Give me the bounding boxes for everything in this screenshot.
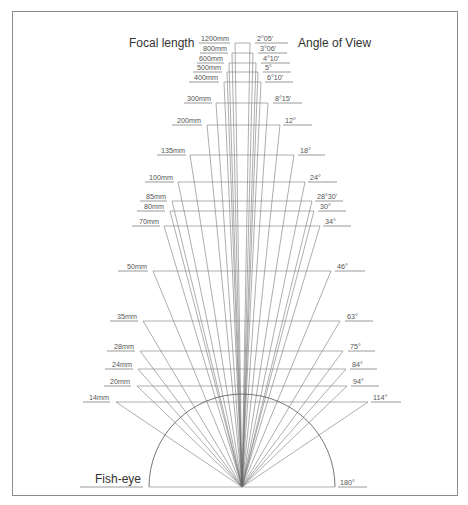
- focal-length-label: 100mm: [149, 173, 173, 182]
- view-angle-rays: [116, 43, 368, 487]
- angle-label: 24°: [310, 173, 321, 182]
- focal-length-label: 135mm: [161, 146, 185, 155]
- ray-left: [235, 43, 242, 487]
- angle-label: 75°: [350, 342, 361, 351]
- angle-label: 28°30': [317, 192, 338, 201]
- ray-right: [242, 226, 320, 487]
- ray-left: [153, 271, 242, 487]
- focal-length-label: 85mm: [146, 192, 166, 201]
- ray-right: [242, 201, 312, 487]
- ray-right: [242, 103, 268, 487]
- focal-length-label: 200mm: [177, 116, 201, 125]
- ray-left: [232, 53, 242, 487]
- focal-length-label: 400mm: [194, 73, 218, 82]
- ray-left: [207, 125, 242, 487]
- focal-length-label: 1200mm: [201, 34, 229, 43]
- angle-label: 94°: [353, 377, 364, 386]
- focal-length-label: 800mm: [203, 44, 227, 53]
- focal-length-label: 20mm: [110, 377, 130, 386]
- ray-right: [242, 53, 253, 487]
- angle-label: 34°: [325, 217, 336, 226]
- angle-label: 180°: [340, 478, 355, 487]
- angle-label: 4°10': [263, 54, 280, 63]
- ray-left: [137, 386, 242, 487]
- ray-right: [242, 351, 343, 487]
- angle-label: 114°: [373, 393, 387, 402]
- ray-left: [172, 201, 242, 487]
- ray-right: [242, 386, 347, 487]
- ray-right: [242, 72, 258, 487]
- focal-length-angle-diagram: 1200mm2°05'800mm3°06'600mm4°10'500mm5°40…: [0, 0, 468, 505]
- focal-length-label: 600mm: [199, 54, 223, 63]
- focal-length-label: 28mm: [114, 342, 134, 351]
- ray-right: [242, 63, 256, 487]
- angle-label: 63°: [347, 312, 358, 321]
- angle-label: 12°: [285, 116, 296, 125]
- ray-right: [242, 182, 305, 487]
- angle-of-view-header: Angle of View: [298, 36, 371, 50]
- focal-length-label: 24mm: [112, 360, 132, 369]
- ray-left: [227, 72, 242, 487]
- angle-label: 18°: [300, 146, 311, 155]
- angle-label: 6°10': [267, 73, 284, 82]
- ray-left: [143, 321, 242, 487]
- angle-label: 2°05': [257, 34, 274, 43]
- ray-left: [140, 351, 242, 487]
- focal-length-label: 300mm: [187, 94, 211, 103]
- focal-length-label: 500mm: [197, 63, 221, 72]
- angle-label: 3°06': [260, 44, 277, 53]
- angle-label: 84°: [352, 360, 363, 369]
- fisheye-label: Fish-eye: [95, 472, 141, 486]
- focal-length-label: 70mm: [139, 217, 159, 226]
- angle-label: 8°15': [275, 94, 292, 103]
- ray-left: [164, 226, 242, 487]
- focal-length-label: 50mm: [127, 262, 147, 271]
- angle-label: 5°: [265, 63, 272, 72]
- focal-length-header: Focal length: [129, 36, 194, 50]
- focal-length-label: 35mm: [117, 312, 137, 321]
- focal-length-label: 80mm: [144, 202, 164, 211]
- angle-label: 30°: [320, 202, 331, 211]
- ray-left: [229, 63, 242, 487]
- angle-label: 46°: [337, 262, 348, 271]
- ray-right: [242, 271, 331, 487]
- ray-left: [216, 103, 242, 487]
- ray-left: [224, 82, 242, 487]
- focal-length-label: 14mm: [89, 393, 109, 402]
